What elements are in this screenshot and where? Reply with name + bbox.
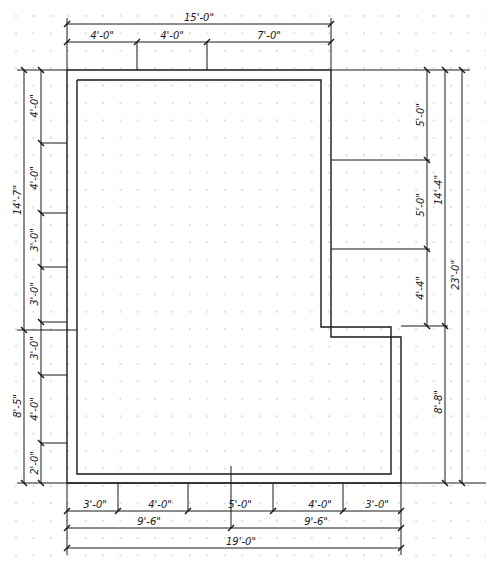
- dim-left-inner-1: 4'-0": [29, 94, 40, 118]
- dim-right-inner-3: 4'-4": [415, 276, 426, 300]
- dim-top-seg-2: 4'-0": [160, 30, 184, 41]
- dim-top-overall: 15'-0": [184, 12, 214, 23]
- dim-bottom-seg-5: 3'-0": [365, 499, 389, 510]
- dim-right-middle-2: 8'-8": [433, 390, 444, 414]
- dim-left-inner-4: 3'-0": [29, 282, 40, 306]
- dim-left-outer-2: 8'-5": [12, 394, 23, 418]
- dim-right-overall: 23'-0": [450, 260, 461, 290]
- dim-top-seg-1: 4'-0": [90, 30, 114, 41]
- dim-bottom-half-2: 9'-6": [304, 516, 328, 527]
- floor-plan-canvas: 15'-0" 4'-0" 4'-0" 7'-0" 14'-7" 8'-5" 4'…: [0, 0, 486, 563]
- dim-right-inner-1: 5'-0": [415, 103, 426, 127]
- dim-left-inner-6: 4'-0": [29, 397, 40, 421]
- dim-left-inner-5: 3'-0": [29, 336, 40, 360]
- dim-left-inner-3: 3'-0": [29, 228, 40, 252]
- dim-left-outer-1: 14'-7": [12, 185, 23, 215]
- dim-left-inner-7: 2'-0": [29, 451, 40, 475]
- dim-bottom-overall: 19'-0": [226, 536, 256, 547]
- dim-bottom-seg-3: 5'-0": [228, 499, 252, 510]
- dim-top-seg-3: 7'-0": [257, 30, 281, 41]
- dim-right-inner-2: 5'-0": [415, 193, 426, 217]
- dim-bottom-seg-2: 4'-0": [148, 499, 172, 510]
- dim-bottom-seg-4: 4'-0": [308, 499, 332, 510]
- dim-bottom-seg-1: 3'-0": [83, 499, 107, 510]
- dim-bottom-half-1: 9'-6": [137, 516, 161, 527]
- dot-grid: [0, 0, 486, 563]
- dim-right-middle-1: 14'-4": [433, 175, 444, 205]
- dim-left-inner-2: 4'-0": [29, 166, 40, 190]
